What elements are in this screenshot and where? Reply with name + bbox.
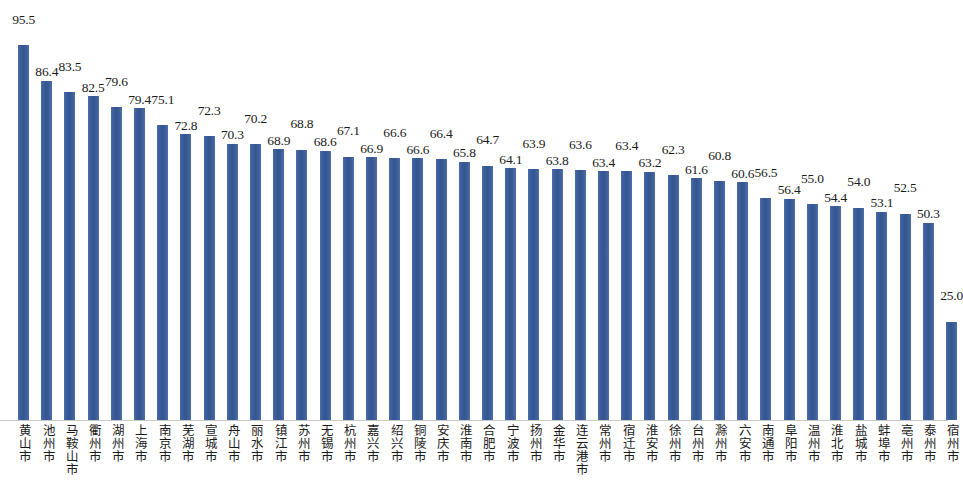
category-label: 扬州市	[528, 424, 541, 463]
bar[interactable]	[853, 208, 864, 420]
category-label: 台州市	[690, 424, 703, 463]
bar[interactable]	[111, 107, 122, 420]
bar[interactable]	[644, 172, 655, 420]
bar-value-label: 50.3	[917, 207, 940, 221]
category-label: 宁波市	[504, 424, 517, 463]
bar-value-label: 63.6	[569, 138, 592, 152]
category-label: 苏州市	[296, 424, 309, 463]
category-label: 黄山市	[17, 424, 30, 463]
bar-slot: 66.6	[383, 0, 406, 422]
bar[interactable]	[366, 157, 377, 420]
bar-value-label: 54.0	[847, 175, 870, 189]
bar-slot: 54.0	[847, 0, 870, 422]
bar-value-label: 56.5	[755, 166, 778, 180]
bar-value-label: 63.8	[546, 154, 569, 168]
bar[interactable]	[296, 150, 307, 420]
bar-value-label: 60.8	[708, 149, 731, 163]
category-label: 上海市	[133, 424, 146, 463]
bar-slot: 61.6	[685, 0, 708, 422]
bar[interactable]	[946, 322, 957, 420]
bar[interactable]	[482, 166, 493, 420]
category-label: 铜陵市	[412, 424, 425, 463]
category-label: 泰州市	[922, 424, 935, 463]
category-label: 镇江市	[272, 424, 285, 463]
bar[interactable]	[876, 212, 887, 421]
bar[interactable]	[760, 198, 771, 420]
bar-slot: 70.2	[244, 0, 267, 422]
category-label: 马鞍山市	[64, 424, 77, 476]
bar-value-label: 56.4	[778, 183, 801, 197]
bar[interactable]	[807, 204, 818, 420]
bar[interactable]	[227, 144, 238, 420]
bar-slot: 95.5	[12, 0, 35, 422]
bar-value-label: 83.5	[59, 60, 82, 74]
bar[interactable]	[88, 96, 99, 420]
bar[interactable]	[459, 162, 470, 420]
bar[interactable]	[180, 134, 191, 420]
bar-value-label: 64.7	[476, 133, 499, 147]
bar-value-label: 95.5	[12, 13, 35, 27]
category-label: 衢州市	[87, 424, 100, 463]
bar-slot: 60.8	[708, 0, 731, 422]
category-label: 南通市	[760, 424, 773, 463]
bar-value-label: 82.5	[82, 81, 105, 95]
bar[interactable]	[343, 157, 354, 420]
bar-value-label: 66.4	[430, 127, 453, 141]
bar[interactable]	[436, 159, 447, 420]
bar[interactable]	[552, 169, 563, 420]
bar[interactable]	[668, 175, 679, 420]
category-label: 湖州市	[110, 424, 123, 463]
bar[interactable]	[157, 125, 168, 420]
bar-slot: 72.3	[198, 0, 221, 422]
category-label: 无锡市	[319, 424, 332, 463]
bar-slot: 67.1	[337, 0, 360, 422]
category-label: 连云港市	[574, 424, 587, 476]
bar[interactable]	[784, 199, 795, 420]
bar[interactable]	[598, 171, 609, 420]
bar[interactable]	[505, 168, 516, 420]
bar-slot: 79.4	[128, 0, 151, 422]
bar-slot: 63.4	[592, 0, 615, 422]
bar-slot: 25.0	[940, 0, 963, 422]
category-label: 徐州市	[667, 424, 680, 463]
bar[interactable]	[900, 214, 911, 420]
bar[interactable]	[923, 223, 934, 421]
bar[interactable]	[575, 170, 586, 420]
bar[interactable]	[250, 144, 261, 420]
bar-value-label: 79.6	[105, 75, 128, 89]
bar-value-label: 64.1	[499, 153, 522, 167]
bar-slot: 68.9	[267, 0, 290, 422]
bar[interactable]	[64, 92, 75, 420]
category-label: 舟山市	[226, 424, 239, 463]
category-label: 杭州市	[342, 424, 355, 463]
bar-value-label: 66.9	[360, 142, 383, 156]
bar[interactable]	[273, 149, 284, 420]
category-label: 蚌埠市	[876, 424, 889, 463]
bar[interactable]	[41, 81, 52, 420]
bar[interactable]	[830, 206, 841, 420]
category-label: 宣城市	[203, 424, 216, 463]
bar-slot: 64.1	[499, 0, 522, 422]
bar-slot: 63.8	[546, 0, 569, 422]
bar[interactable]	[204, 136, 215, 420]
bar[interactable]	[320, 151, 331, 420]
bar-slot: 53.1	[870, 0, 893, 422]
bar-slot: 66.6	[406, 0, 429, 422]
bar-value-label: 61.6	[685, 163, 708, 177]
bar[interactable]	[714, 181, 725, 420]
category-label: 池州市	[40, 424, 53, 463]
bar[interactable]	[528, 169, 539, 420]
category-label: 亳州市	[899, 424, 912, 463]
bar[interactable]	[691, 178, 702, 420]
bar-value-label: 53.1	[871, 196, 894, 210]
bar[interactable]	[621, 171, 632, 420]
bar[interactable]	[389, 158, 400, 420]
bar[interactable]	[412, 158, 423, 420]
bar-value-label: 66.6	[383, 126, 406, 140]
bar-slot: 56.4	[778, 0, 801, 422]
bar-value-label: 70.3	[221, 128, 244, 142]
bar[interactable]	[737, 182, 748, 420]
bar[interactable]	[134, 108, 145, 420]
bar-slot: 82.5	[82, 0, 105, 422]
bar[interactable]	[18, 45, 29, 420]
